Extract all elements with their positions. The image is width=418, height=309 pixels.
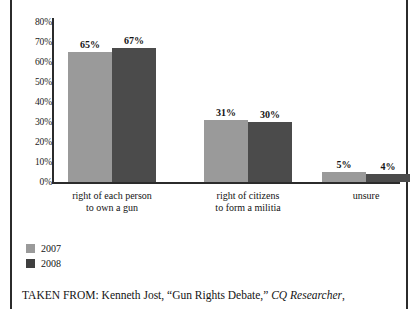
- category-label-0: right of each personto own a gun: [50, 190, 174, 214]
- bar-value-label: 4%: [366, 161, 410, 172]
- legend-label: 2008: [41, 257, 61, 270]
- bar-value-label: 30%: [248, 109, 292, 120]
- bar-group: 65%67%: [68, 0, 156, 184]
- bar-series-container: 65%67%31%30%5%4%: [54, 0, 400, 184]
- legend-swatch-icon: [26, 259, 35, 268]
- bar-2008-2: [366, 174, 410, 182]
- bar-2008-0: [112, 48, 156, 182]
- category-label-line: right of citizens: [186, 190, 310, 202]
- bar-value-label: 65%: [68, 39, 112, 50]
- bar-2007-1: [204, 120, 248, 182]
- bar-group: 5%4%: [322, 0, 410, 184]
- legend-label: 2007: [41, 242, 61, 255]
- caption-suffix: ,: [342, 289, 345, 301]
- y-tick-label: 50%: [2, 77, 52, 87]
- y-tick-label: 60%: [2, 57, 52, 67]
- bar-2007-2: [322, 172, 366, 182]
- y-tick-label: 40%: [2, 97, 52, 107]
- y-tick-label: 80%: [2, 17, 52, 27]
- bar-value-label: 67%: [112, 35, 156, 46]
- y-axis-tick-labels: 80%70%60%50%40%30%20%10%0%: [0, 0, 52, 230]
- category-label-line: to form a militia: [186, 202, 310, 214]
- y-tick-label: 0%: [2, 177, 52, 187]
- y-tick-label: 30%: [2, 117, 52, 127]
- bar-group: 31%30%: [204, 0, 292, 184]
- bar-value-label: 5%: [322, 159, 366, 170]
- category-label-line: to own a gun: [50, 202, 174, 214]
- plot-area: 80%70%60%50%40%30%20%10%0% 65%67%31%30%5…: [0, 0, 406, 230]
- category-label-line: unsure: [304, 190, 418, 202]
- caption-source: CQ Researcher: [271, 289, 342, 301]
- category-label-line: right of each person: [50, 190, 174, 202]
- bar-2008-1: [248, 122, 292, 182]
- y-tick-label: 20%: [2, 137, 52, 147]
- bar-2007-0: [68, 52, 112, 182]
- y-tick-label: 10%: [2, 157, 52, 167]
- category-label-1: right of citizensto form a militia: [186, 190, 310, 214]
- chart-figure: 80%70%60%50%40%30%20%10%0% 65%67%31%30%5…: [0, 0, 418, 309]
- legend-swatch-icon: [26, 244, 35, 253]
- figure-caption: TAKEN FROM: Kenneth Jost, “Gun Rights De…: [22, 288, 397, 302]
- bar-value-label: 31%: [204, 107, 248, 118]
- category-label-2: unsure: [304, 190, 418, 202]
- caption-prefix: TAKEN FROM: Kenneth Jost, “Gun Rights De…: [22, 289, 271, 301]
- y-tick-label: 70%: [2, 37, 52, 47]
